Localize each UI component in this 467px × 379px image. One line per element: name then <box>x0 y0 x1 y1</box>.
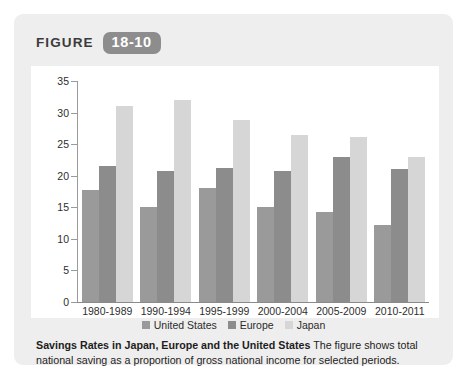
bar <box>216 168 233 302</box>
bar <box>408 157 425 302</box>
legend-label: United States <box>154 320 217 331</box>
bar <box>140 207 157 302</box>
legend-swatch-icon <box>285 321 293 329</box>
figure-header: FIGURE 18-10 <box>36 32 161 54</box>
y-axis-tick <box>71 239 77 240</box>
bar-group <box>257 66 308 302</box>
bar-group <box>316 66 367 302</box>
x-axis-tick-label: 2005-2009 <box>309 305 373 319</box>
figure-card: FIGURE 18-10 05101520253035 1980-1989199… <box>14 14 453 365</box>
bar-group <box>374 66 425 302</box>
figure-label: FIGURE <box>36 35 94 50</box>
bar <box>116 106 133 302</box>
y-axis-tick-label: 0 <box>33 297 69 308</box>
bar <box>257 207 274 302</box>
bar-group <box>199 66 250 302</box>
y-axis-tick-label: 25 <box>33 139 69 150</box>
y-axis-tick-label: 30 <box>33 108 69 119</box>
x-axis-tick-label: 2010-2011 <box>368 305 432 319</box>
chart-legend: United StatesEuropeJapan <box>14 320 453 331</box>
y-axis-tick <box>71 302 77 303</box>
bar <box>199 188 216 302</box>
bar-group <box>140 66 191 302</box>
bar-series-layer <box>78 66 429 303</box>
y-axis-tick <box>71 81 77 82</box>
x-axis-tick-label: 1995-1999 <box>192 305 256 319</box>
caption-title: Savings Rates in Japan, Europe and the U… <box>36 339 310 351</box>
bar <box>233 120 250 302</box>
chart-plot-area: 05101520253035 1980-19891990-19941995-19… <box>31 66 439 318</box>
figure-caption: Savings Rates in Japan, Europe and the U… <box>36 338 434 368</box>
y-axis-tick <box>71 144 77 145</box>
bar <box>82 190 99 302</box>
y-axis-tick <box>71 176 77 177</box>
legend-item: Japan <box>285 320 326 331</box>
bar <box>374 225 391 302</box>
bar <box>157 171 174 302</box>
y-axis-tick-label: 20 <box>33 171 69 182</box>
y-axis-tick-label: 10 <box>33 234 69 245</box>
bar <box>391 169 408 302</box>
y-axis-tick <box>71 207 77 208</box>
bar-group <box>82 66 133 302</box>
legend-item: United States <box>142 320 217 331</box>
y-axis-tick-label: 35 <box>33 76 69 87</box>
legend-label: Europe <box>240 320 274 331</box>
bar <box>350 137 367 302</box>
legend-swatch-icon <box>228 321 236 329</box>
y-axis-labels: 05101520253035 <box>31 66 69 318</box>
y-axis-tick <box>71 270 77 271</box>
bar <box>174 100 191 302</box>
y-axis-tick <box>71 113 77 114</box>
y-axis-tick-label: 5 <box>33 265 69 276</box>
legend-swatch-icon <box>142 321 150 329</box>
bar <box>291 135 308 302</box>
bar <box>99 166 116 302</box>
bar <box>333 157 350 302</box>
y-axis-tick-label: 15 <box>33 202 69 213</box>
x-axis-tick-label: 1990-1994 <box>134 305 198 319</box>
legend-label: Japan <box>297 320 326 331</box>
x-axis-tick-label: 1980-1989 <box>75 305 139 319</box>
legend-item: Europe <box>228 320 274 331</box>
bar <box>274 171 291 302</box>
bar <box>316 212 333 302</box>
x-axis-tick-label: 2000-2004 <box>251 305 315 319</box>
figure-number-badge: 18-10 <box>103 32 161 54</box>
